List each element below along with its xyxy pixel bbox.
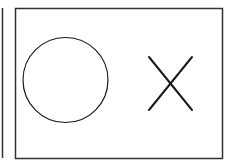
diagram-svg — [0, 0, 230, 160]
circle-icon — [23, 38, 108, 123]
diagram-canvas — [0, 0, 230, 160]
main-panel-frame — [16, 9, 223, 159]
x-mark-icon — [149, 57, 192, 110]
